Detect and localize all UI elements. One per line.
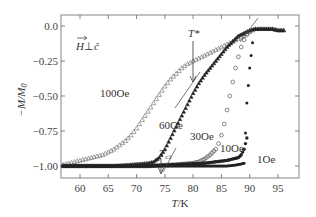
data-point	[247, 84, 250, 87]
y-tick-label: −1.00	[33, 160, 59, 172]
data-point	[177, 69, 181, 73]
tstar-label: T*	[188, 27, 200, 39]
y-tick-label: −0.25	[33, 55, 59, 67]
data-point	[245, 136, 248, 139]
data-point	[146, 109, 150, 113]
x-tick-label: 70	[131, 182, 143, 194]
data-point	[186, 103, 190, 106]
x-tick-label: 80	[188, 182, 200, 194]
data-point	[134, 126, 138, 130]
data-point	[180, 114, 184, 117]
data-point	[225, 108, 229, 112]
data-point	[234, 66, 238, 70]
data-point	[188, 99, 192, 102]
data-point	[137, 122, 141, 126]
data-point	[184, 106, 188, 109]
curve-label-10oe: 10Oe	[220, 142, 244, 154]
data-point	[140, 118, 144, 122]
data-point	[126, 136, 130, 140]
data-point	[174, 71, 178, 75]
data-point	[171, 74, 175, 78]
data-point	[251, 41, 254, 44]
data-point	[228, 94, 232, 98]
data-point	[151, 101, 155, 105]
data-point	[160, 88, 164, 92]
x-tick-label: 90	[244, 182, 256, 194]
data-point	[143, 113, 147, 117]
curve-label-60oe: 60Oe	[159, 119, 183, 131]
curve-label-1oe: 1Oe	[257, 153, 275, 165]
data-point	[244, 132, 247, 135]
data-point	[157, 92, 161, 96]
data-point	[123, 139, 127, 143]
data-point	[154, 97, 158, 101]
data-point	[169, 136, 173, 139]
data-point	[189, 95, 193, 98]
data-point	[243, 162, 246, 165]
data-point	[171, 132, 175, 135]
x-tick-label: 60	[75, 182, 87, 194]
y-axis-label: −M/M0	[15, 84, 29, 117]
data-point	[237, 55, 241, 59]
data-point	[222, 122, 226, 126]
field-direction-label: H⊥ĉ	[75, 40, 99, 52]
x-tick-label: 95	[273, 182, 285, 194]
y-tick-label: −0.75	[33, 125, 59, 137]
data-point	[149, 105, 153, 109]
curve-label-30oe: 30Oe	[190, 130, 214, 142]
data-point	[165, 144, 169, 147]
data-point	[182, 110, 186, 113]
magnetization-chart: 60 65 70 75 80 85 90 95 T/K 0.0 −0.25 −0…	[0, 0, 316, 217]
curve-label-100oe: 100Oe	[100, 87, 129, 99]
y-tick-label: −0.50	[33, 90, 59, 102]
data-point	[245, 102, 248, 105]
data-point	[244, 142, 247, 145]
data-point	[167, 140, 171, 143]
x-tick-label: 75	[159, 182, 171, 194]
data-point	[250, 54, 253, 57]
data-point	[195, 85, 199, 88]
data-point	[239, 45, 243, 49]
data-point	[193, 88, 197, 91]
x-tick-label: 65	[103, 182, 115, 194]
x-tick-label: 85	[216, 182, 228, 194]
data-point	[248, 67, 251, 70]
x-axis-label: T/K	[171, 197, 188, 209]
data-point	[191, 91, 195, 94]
data-point	[168, 77, 172, 81]
data-point	[231, 80, 235, 84]
data-point	[220, 133, 224, 137]
y-tick-label: 0.0	[44, 20, 58, 32]
